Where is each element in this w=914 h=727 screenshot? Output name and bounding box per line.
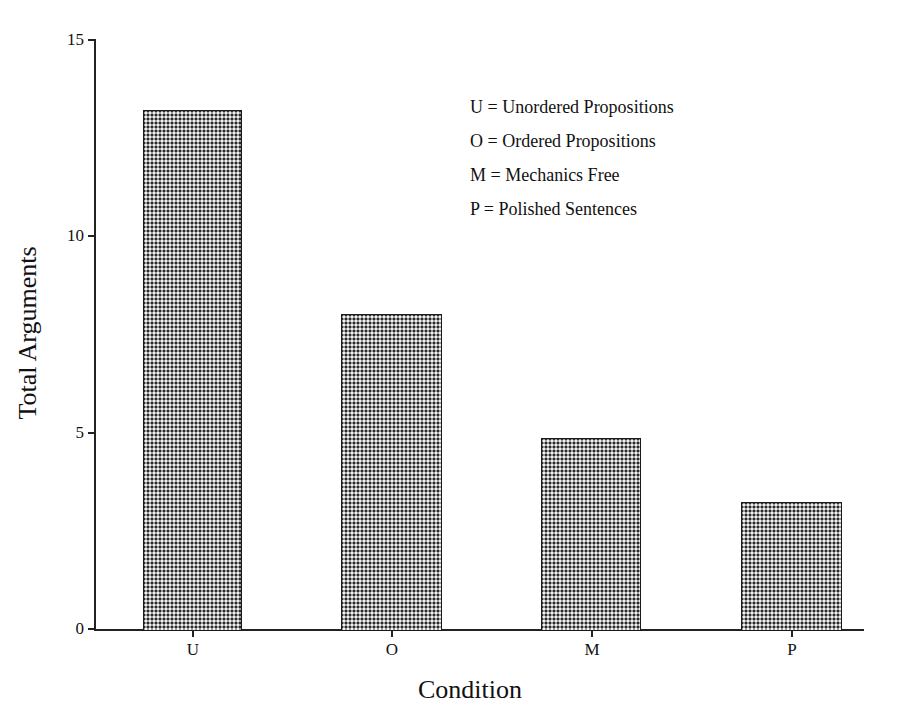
x-tick	[192, 630, 194, 637]
bar-O	[341, 314, 442, 631]
y-tick	[88, 432, 95, 434]
x-tick	[391, 630, 393, 637]
y-tick-label: 15	[44, 31, 84, 48]
x-tick	[591, 630, 593, 637]
y-axis-title: Total Arguments	[13, 243, 43, 423]
x-tick-label: P	[772, 640, 812, 660]
y-tick	[88, 39, 95, 41]
x-tick-label: U	[173, 640, 213, 660]
y-tick-label: 10	[44, 227, 84, 244]
legend: U = Unordered Propositions O = Ordered P…	[470, 90, 674, 226]
bar-U	[143, 110, 242, 631]
bar-P	[741, 502, 842, 631]
x-axis-title: Condition	[380, 675, 560, 705]
y-tick-label: 0	[44, 620, 84, 637]
y-axis-line	[94, 39, 96, 630]
bar-M	[541, 438, 641, 631]
legend-item: P = Polished Sentences	[470, 192, 674, 226]
y-tick-label: 5	[44, 424, 84, 441]
legend-item: U = Unordered Propositions	[470, 90, 674, 124]
y-tick	[88, 235, 95, 237]
x-tick	[791, 630, 793, 637]
y-tick	[88, 628, 95, 630]
legend-item: M = Mechanics Free	[470, 158, 674, 192]
x-tick-label: O	[372, 640, 412, 660]
legend-item: O = Ordered Propositions	[470, 124, 674, 158]
x-tick-label: M	[572, 640, 612, 660]
